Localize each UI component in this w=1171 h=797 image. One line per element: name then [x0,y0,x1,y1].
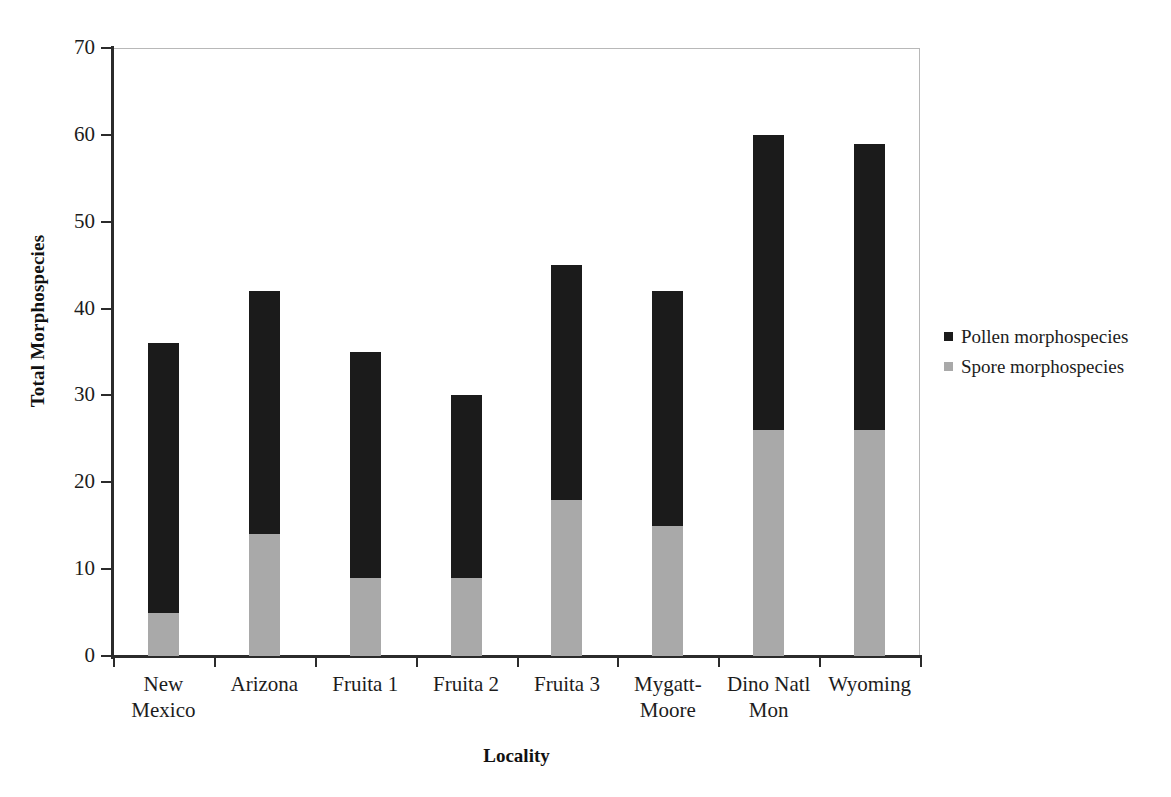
x-axis-category-label-line: Wyoming [805,672,935,698]
y-axis-tick-label-text: 20 [51,471,95,492]
x-axis-tick [416,655,418,667]
x-axis-category-label-line: Mexico [98,698,228,724]
y-axis-tick-label-text: 0 [51,645,95,666]
legend-swatch-spore-icon [944,362,953,371]
legend-item[interactable]: Spore morphospecies [944,357,1128,376]
bar-stack[interactable] [350,352,381,656]
bar-segment-pollen[interactable] [854,144,885,431]
bar-segment-spore[interactable] [148,613,179,656]
legend-swatch-pollen-icon [944,332,953,341]
bar-stack[interactable] [451,395,482,656]
x-axis-category-label: Wyoming [805,672,935,698]
x-axis-tick [718,655,720,667]
bar-segment-spore[interactable] [551,500,582,656]
y-axis-title: Total Morphospecies [27,221,49,421]
bar-segment-pollen[interactable] [148,343,179,612]
bar-stack[interactable] [753,135,784,656]
x-axis-tick [113,655,115,667]
y-axis-tick [101,481,112,483]
bar-segment-pollen[interactable] [551,265,582,500]
bar-segment-pollen[interactable] [652,291,683,526]
y-axis-tick-label: 60 [40,124,95,145]
x-axis-tick [517,655,519,667]
y-axis-tick-label-text: 40 [51,298,95,319]
y-axis-tick-label-text: 10 [51,558,95,579]
bar-segment-pollen[interactable] [753,135,784,430]
bar-segment-spore[interactable] [854,430,885,656]
y-axis-tick [101,394,112,396]
bar-stack[interactable] [249,291,280,656]
y-axis-tick-label-text: 50 [51,211,95,232]
y-axis-tick-label-text: 60 [51,124,95,145]
y-axis-tick-label-text: 70 [51,37,95,58]
chart-legend: Pollen morphospeciesSpore morphospecies [944,327,1128,387]
y-axis-tick [101,47,112,49]
legend-item[interactable]: Pollen morphospecies [944,327,1128,346]
bar-segment-pollen[interactable] [350,352,381,578]
x-axis-tick [920,655,922,667]
bar-segment-spore[interactable] [652,526,683,656]
y-axis-tick [101,655,112,657]
legend-item-label: Pollen morphospecies [961,327,1128,346]
y-axis-tick-label: 10 [40,558,95,579]
x-axis-title: Locality [113,745,920,767]
legend-item-label: Spore morphospecies [961,357,1124,376]
bar-stack[interactable] [854,144,885,656]
x-axis-category-label-line: Mon [704,698,834,724]
bar-stack[interactable] [652,291,683,656]
bar-segment-spore[interactable] [350,578,381,656]
y-axis-tick [101,308,112,310]
bar-segment-spore[interactable] [451,578,482,656]
y-axis-tick-label: 0 [40,645,95,666]
bars-layer [113,48,920,656]
x-axis-tick [214,655,216,667]
bar-segment-pollen[interactable] [451,395,482,577]
y-axis-tick [101,221,112,223]
x-axis-tick [617,655,619,667]
bar-segment-pollen[interactable] [249,291,280,534]
chart-page: 010203040506070 NewMexicoArizonaFruita 1… [0,0,1171,797]
y-axis-tick [101,134,112,136]
bar-segment-spore[interactable] [249,534,280,656]
bar-stack[interactable] [148,343,179,656]
y-axis-tick-label: 20 [40,471,95,492]
x-axis-tick [819,655,821,667]
y-axis-tick [101,568,112,570]
y-axis-tick-label: 70 [40,37,95,58]
x-axis-tick [315,655,317,667]
bar-stack[interactable] [551,265,582,656]
bar-segment-spore[interactable] [753,430,784,656]
y-axis-tick-label-text: 30 [51,384,95,405]
